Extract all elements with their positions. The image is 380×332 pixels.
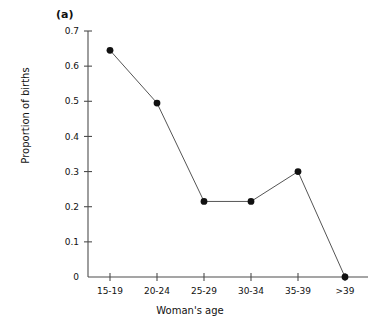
x-tick-label: >39	[336, 286, 355, 296]
x-tick-label: 15-19	[97, 286, 123, 296]
y-tick-label: 0.7	[65, 26, 79, 36]
x-tick-label: 20-24	[144, 286, 170, 296]
x-axis: 15-1920-2425-2930-3435-39>39	[88, 273, 368, 296]
chart-figure: (a) Proportion of births Woman's age 00.…	[0, 0, 380, 332]
x-tick-label: 35-39	[285, 286, 311, 296]
y-axis: 00.10.20.30.40.50.60.7	[65, 26, 92, 282]
data-point-marker	[342, 274, 349, 281]
x-tick-label: 30-34	[238, 286, 264, 296]
data-point-marker	[154, 100, 161, 107]
y-tick-label: 0.1	[65, 237, 79, 247]
y-tick-label: 0.6	[65, 61, 80, 71]
y-tick-label: 0.2	[65, 202, 79, 212]
series-line	[110, 50, 345, 277]
y-tick-label: 0.4	[65, 132, 80, 142]
data-point-marker	[295, 168, 302, 175]
data-point-marker	[248, 198, 255, 205]
y-tick-label: 0.5	[65, 96, 79, 106]
data-series	[107, 47, 349, 280]
x-tick-label: 25-29	[191, 286, 217, 296]
data-point-marker	[107, 47, 114, 54]
plot-area: 00.10.20.30.40.50.60.7 15-1920-2425-2930…	[0, 0, 380, 332]
y-tick-label: 0	[73, 272, 79, 282]
y-tick-label: 0.3	[65, 167, 79, 177]
data-point-marker	[201, 198, 208, 205]
